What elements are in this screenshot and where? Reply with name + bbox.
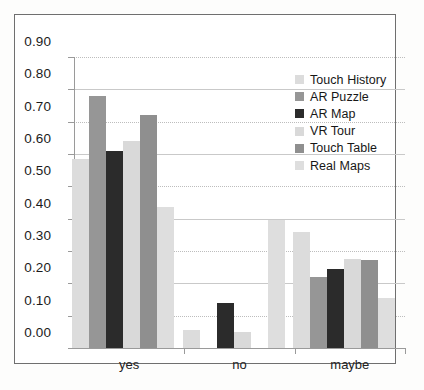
bar xyxy=(234,332,251,348)
bar xyxy=(293,232,310,348)
bar xyxy=(157,207,174,348)
y-axis-label: 0.00 xyxy=(15,325,51,340)
legend-label: Touch History xyxy=(310,73,386,87)
bar xyxy=(89,96,106,348)
x-axis-label-yes: yes xyxy=(74,357,184,372)
legend-item: AR Map xyxy=(295,105,415,122)
legend-label: AR Puzzle xyxy=(310,90,369,104)
bar xyxy=(140,115,157,348)
legend-label: Touch Table xyxy=(310,141,377,155)
bar xyxy=(72,159,89,348)
bar xyxy=(183,330,200,348)
x-axis-line xyxy=(74,348,405,349)
bar xyxy=(106,151,123,348)
plot-area: yesnomaybe Touch HistoryAR PuzzleAR MapV… xyxy=(74,57,405,348)
x-axis-label-no: no xyxy=(184,357,294,372)
y-axis-tick xyxy=(68,348,74,349)
y-axis-label: 0.40 xyxy=(15,196,51,211)
x-axis-tick xyxy=(405,348,406,354)
bar xyxy=(344,259,361,348)
y-axis-label: 0.80 xyxy=(15,66,51,81)
y-axis-label: 0.70 xyxy=(15,99,51,114)
legend-swatch-icon xyxy=(295,161,304,170)
legend-label: AR Map xyxy=(310,107,355,121)
figure-frame: yesnomaybe Touch HistoryAR PuzzleAR MapV… xyxy=(14,14,396,364)
chart-legend: Touch HistoryAR PuzzleAR MapVR TourTouch… xyxy=(295,71,415,174)
bar xyxy=(310,277,327,348)
y-axis-label: 0.30 xyxy=(15,228,51,243)
y-axis-label: 0.50 xyxy=(15,163,51,178)
legend-item: VR Tour xyxy=(295,123,415,140)
y-axis-label: 0.90 xyxy=(15,34,51,49)
legend-swatch-icon xyxy=(295,144,304,153)
bar-group-yes xyxy=(72,57,174,348)
bar xyxy=(327,269,344,348)
x-axis-label-maybe: maybe xyxy=(295,357,405,372)
legend-label: VR Tour xyxy=(310,124,355,138)
bar xyxy=(378,298,395,348)
legend-item: Real Maps xyxy=(295,157,415,174)
x-axis-tick xyxy=(295,348,296,354)
bar-group-no xyxy=(183,57,285,348)
bar xyxy=(123,141,140,348)
bar xyxy=(268,220,285,348)
bar xyxy=(217,303,234,348)
legend-swatch-icon xyxy=(295,127,304,136)
chart-figure: yesnomaybe Touch HistoryAR PuzzleAR MapV… xyxy=(0,0,424,390)
legend-swatch-icon xyxy=(295,75,304,84)
x-axis-tick xyxy=(184,348,185,354)
legend-item: AR Puzzle xyxy=(295,88,415,105)
legend-swatch-icon xyxy=(295,109,304,118)
y-axis-label: 0.10 xyxy=(15,293,51,308)
y-axis-label: 0.60 xyxy=(15,131,51,146)
legend-item: Touch Table xyxy=(295,140,415,157)
y-axis-label: 0.20 xyxy=(15,260,51,275)
legend-item: Touch History xyxy=(295,71,415,88)
bar xyxy=(361,260,378,348)
legend-label: Real Maps xyxy=(310,159,370,173)
legend-swatch-icon xyxy=(295,92,304,101)
